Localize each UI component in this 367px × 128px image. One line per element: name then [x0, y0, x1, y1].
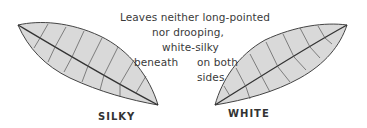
caption-line-3: white-silky [162, 41, 219, 53]
caption-beneath: beneath [134, 56, 178, 68]
leaf-comparison-diagram: Leaves neither long-pointed nor drooping… [0, 0, 367, 128]
caption-line-1: Leaves neither long-pointed [120, 11, 270, 23]
white-label: WHITE [228, 108, 270, 119]
caption-on-both: on both [197, 56, 238, 68]
silky-label: SILKY [98, 111, 135, 122]
caption-line-2: nor drooping, [152, 26, 224, 38]
caption-sides: sides [197, 71, 224, 83]
